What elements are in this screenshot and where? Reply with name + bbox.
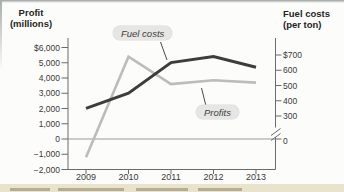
dual-axis-line-chart-figure: Profit (millions) Fuel costs (per ton) F… <box>0 0 344 192</box>
profits-line-label: Profits <box>196 105 239 119</box>
left-axis-tick-label: 3,000 <box>0 88 60 98</box>
x-axis-year-label: 2010 <box>112 172 146 182</box>
page-margin-strip <box>0 184 344 192</box>
right-axis-zero-label: 0 <box>283 136 303 146</box>
left-axis-tick-label: 0 <box>0 134 60 144</box>
x-axis-year-label: 2011 <box>154 172 188 182</box>
left-axis-tick-label: 2,000 <box>0 104 60 114</box>
left-axis-tick-label: 1,000 <box>0 119 60 129</box>
cropped-caption-fragment <box>136 188 188 191</box>
right-axis-tick-label: $700 <box>283 50 338 60</box>
fuel-costs-line-label: Fuel costs <box>113 26 172 40</box>
left-axis-tick-label: 5,000 <box>0 58 60 68</box>
left-axis-tick-label: −1,000 <box>0 149 60 159</box>
x-axis-year-label: 2009 <box>69 172 103 182</box>
cropped-caption-fragment <box>198 188 242 191</box>
right-axis-tick-label: 400 <box>283 96 338 106</box>
right-axis-tick-label: 300 <box>283 111 338 121</box>
x-axis-year-label: 2013 <box>239 172 273 182</box>
x-axis-year-label: 2012 <box>197 172 231 182</box>
right-axis-tick-label: 500 <box>283 81 338 91</box>
left-axis-tick-label: $6,000 <box>0 43 60 53</box>
right-axis-tick-label: 600 <box>283 65 338 75</box>
left-axis-tick-label: −2,000 <box>0 165 60 175</box>
fuel-costs-callout-line <box>161 42 168 60</box>
cropped-caption-fragment <box>10 188 50 191</box>
cropped-caption-fragment <box>58 188 124 191</box>
profits-callout-line <box>202 88 207 106</box>
left-axis-tick-label: 4,000 <box>0 73 60 83</box>
